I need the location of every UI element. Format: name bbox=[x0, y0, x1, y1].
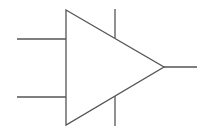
op-amp-svg bbox=[0, 0, 203, 135]
op-amp-diagram bbox=[0, 0, 203, 135]
